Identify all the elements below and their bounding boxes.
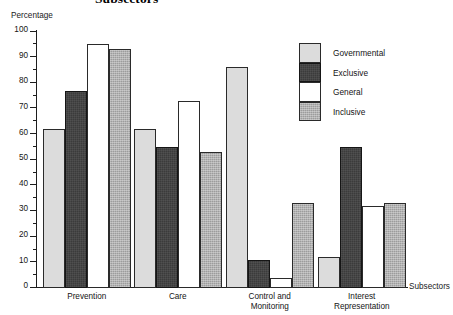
bar-group [134, 31, 222, 288]
bar [43, 129, 65, 288]
bar [87, 44, 109, 288]
bar [384, 203, 406, 288]
legend-label: Exclusive [333, 68, 368, 78]
x-category-label-line: Control and [220, 292, 320, 302]
legend-item[interactable]: Inclusive [299, 102, 439, 122]
x-category-label: InterestRepresentation [312, 292, 412, 311]
x-category-label-line: Prevention [37, 292, 137, 302]
bar-group [43, 31, 131, 288]
legend-label: Inclusive [333, 107, 365, 117]
bar [109, 49, 131, 288]
bar [270, 278, 292, 288]
legend-item[interactable]: Exclusive [299, 63, 439, 83]
bar [318, 257, 340, 288]
bar [200, 152, 222, 288]
legend-item[interactable]: Governmental [299, 43, 439, 63]
bar [178, 101, 200, 288]
bar [340, 147, 362, 288]
legend-item[interactable]: General [299, 82, 439, 102]
bar [134, 129, 156, 288]
x-category-label: Care [128, 292, 228, 302]
bar [362, 206, 384, 288]
x-category-label-line: Care [128, 292, 228, 302]
bar [156, 147, 178, 288]
bar-chart: Subsectors Percentage Subsectors 0102030… [0, 0, 453, 315]
legend-swatch [299, 82, 321, 102]
bar [226, 67, 248, 288]
legend-swatch [299, 43, 321, 63]
x-category-label: Prevention [37, 292, 137, 302]
x-category-label-line: Monitoring [220, 302, 320, 312]
bar [292, 203, 314, 288]
x-category-label-line: Representation [312, 302, 412, 312]
chart-legend: GovernmentalExclusiveGeneralInclusive [299, 43, 439, 121]
legend-swatch [299, 102, 321, 122]
x-category-label: Control andMonitoring [220, 292, 320, 311]
bar [65, 91, 87, 289]
x-category-label-line: Interest [312, 292, 412, 302]
legend-swatch [299, 63, 321, 83]
bar [248, 260, 270, 288]
legend-label: General [333, 87, 363, 97]
legend-label: Governmental [333, 48, 385, 58]
